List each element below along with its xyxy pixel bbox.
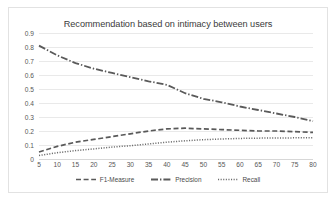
legend-label: F1-Measure bbox=[100, 176, 134, 183]
series-line-recall bbox=[39, 138, 313, 156]
legend-label: Recall bbox=[242, 176, 260, 183]
plot-area bbox=[39, 33, 313, 159]
legend-item-f1-measure[interactable]: F1-Measure bbox=[76, 176, 134, 183]
y-axis-tick-label: 0.5 bbox=[25, 86, 34, 93]
x-axis-tick-label: 80 bbox=[309, 161, 316, 168]
x-axis-tick-label: 60 bbox=[236, 161, 243, 168]
legend-swatch-icon bbox=[151, 176, 171, 183]
legend-swatch-icon bbox=[218, 176, 238, 183]
chart-legend: F1-MeasurePrecisionRecall bbox=[9, 176, 327, 183]
chart-card: Recommendation based on intimacy between… bbox=[8, 7, 328, 193]
y-axis-tick-label: 0 bbox=[30, 156, 34, 163]
x-axis-tick-label: 45 bbox=[181, 161, 188, 168]
legend-swatch-icon bbox=[76, 176, 96, 183]
series-line-precision bbox=[39, 46, 313, 122]
x-axis-tick-label: 75 bbox=[291, 161, 298, 168]
x-axis-tick-label: 70 bbox=[273, 161, 280, 168]
x-axis-tick-label: 5 bbox=[37, 161, 41, 168]
y-axis-tick-label: 0.3 bbox=[25, 114, 34, 121]
legend-item-recall[interactable]: Recall bbox=[218, 176, 260, 183]
x-axis-tick-label: 30 bbox=[127, 161, 134, 168]
y-axis-tick-label: 0.6 bbox=[25, 72, 34, 79]
x-axis-tick-label: 55 bbox=[218, 161, 225, 168]
x-axis-tick-label: 35 bbox=[145, 161, 152, 168]
x-axis-tick-label: 50 bbox=[200, 161, 207, 168]
legend-item-precision[interactable]: Precision bbox=[151, 176, 201, 183]
y-axis-labels: 00.10.20.30.40.50.60.70.80.9 bbox=[9, 33, 37, 159]
series-lines bbox=[39, 33, 313, 159]
y-axis-tick-label: 0.2 bbox=[25, 128, 34, 135]
y-axis-tick-label: 0.9 bbox=[25, 30, 34, 37]
y-axis-tick-label: 0.1 bbox=[25, 142, 34, 149]
y-axis-tick-label: 0.4 bbox=[25, 100, 34, 107]
x-axis-tick-label: 10 bbox=[54, 161, 61, 168]
x-axis-tick-label: 20 bbox=[90, 161, 97, 168]
legend-label: Precision bbox=[175, 176, 201, 183]
gridline bbox=[39, 159, 313, 160]
chart-title: Recommendation based on intimacy between… bbox=[9, 19, 327, 29]
y-axis-tick-label: 0.7 bbox=[25, 58, 34, 65]
x-axis-tick-label: 25 bbox=[108, 161, 115, 168]
series-line-f1-measure bbox=[39, 128, 313, 152]
x-axis-tick-label: 15 bbox=[72, 161, 79, 168]
y-axis-tick-label: 0.8 bbox=[25, 44, 34, 51]
x-axis-tick-label: 65 bbox=[255, 161, 262, 168]
x-axis-labels: 5101520253035404550556065707580 bbox=[39, 161, 313, 173]
x-axis-tick-label: 40 bbox=[163, 161, 170, 168]
